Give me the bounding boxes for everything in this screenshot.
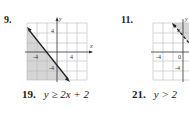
svg-text:x: x xyxy=(89,43,93,49)
svg-text:-4: -4 xyxy=(33,54,38,60)
svg-text:-4: -4 xyxy=(49,65,54,71)
svg-text:-4: -4 xyxy=(175,65,180,71)
equation-21: 21.y > 2 xyxy=(132,88,177,100)
problem-9-number: 9. xyxy=(4,14,12,25)
svg-text:y: y xyxy=(184,16,188,22)
equation-19-number: 19. xyxy=(22,88,36,100)
equation-19: 19.y ≥ 2x + 2 xyxy=(22,88,89,100)
svg-text:4: 4 xyxy=(51,28,54,34)
svg-text:0: 0 xyxy=(178,54,181,60)
equation-19-text: y ≥ 2x + 2 xyxy=(44,88,89,100)
equation-21-number: 21. xyxy=(132,88,146,100)
svg-text:4: 4 xyxy=(177,28,180,34)
graph-problem-9: y x 4 -4 4 -4 xyxy=(24,16,94,84)
equation-21-text: y > 2 xyxy=(154,88,177,100)
svg-text:-4: -4 xyxy=(156,54,161,60)
svg-text:y: y xyxy=(58,16,62,22)
graph-problem-11: y 4 -4 0 -4 xyxy=(150,16,189,84)
problem-11-number: 11. xyxy=(121,14,133,25)
svg-text:4: 4 xyxy=(70,54,73,60)
